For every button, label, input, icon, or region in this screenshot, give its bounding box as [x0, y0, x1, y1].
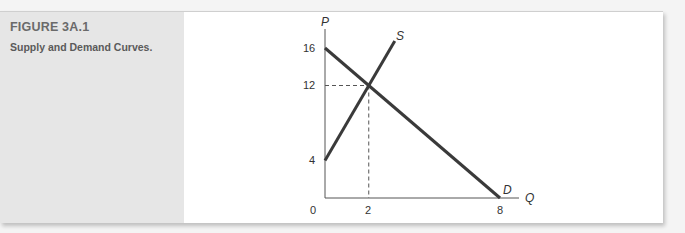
y-tick-16: 16 — [303, 42, 315, 54]
x-tick-8: 8 — [497, 204, 503, 216]
y-tick-12: 12 — [303, 79, 315, 91]
x-axis-label: Q — [525, 191, 534, 205]
x-tick-0: 0 — [310, 204, 316, 216]
demand-curve — [325, 48, 500, 198]
supply-label: S — [396, 29, 404, 43]
supply-demand-chart: P Q S D 16 12 4 0 2 8 — [0, 0, 685, 233]
demand-label: D — [503, 183, 512, 197]
y-axis-label: P — [321, 15, 329, 29]
x-tick-2: 2 — [365, 204, 371, 216]
y-tick-4: 4 — [309, 154, 315, 166]
